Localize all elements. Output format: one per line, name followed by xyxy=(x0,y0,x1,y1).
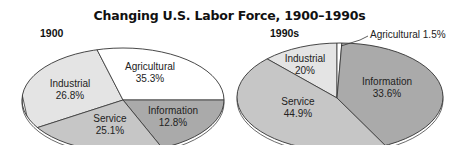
value-1900-service: 25.1% xyxy=(96,125,124,136)
value-1900-agricultural: 35.3% xyxy=(136,73,164,84)
label-1990s-industrial: Industrial xyxy=(285,53,326,64)
label-1900-information: Information xyxy=(148,105,198,116)
label-1900-agricultural: Agricultural xyxy=(125,61,175,72)
pie-charts: Agricultural 35.3% Industrial 26.8% Info… xyxy=(0,0,459,145)
pie-1990s: Agricultural 1.5% Industrial 20% Informa… xyxy=(220,29,459,145)
value-1900-industrial: 26.8% xyxy=(56,90,84,101)
value-1990s-service: 44.9% xyxy=(284,108,312,119)
label-1900-industrial: Industrial xyxy=(50,78,91,89)
value-1900-information: 12.8% xyxy=(159,117,187,128)
pie-1900: Agricultural 35.3% Industrial 26.8% Info… xyxy=(10,40,240,145)
label-1900-service: Service xyxy=(93,113,127,124)
value-1990s-industrial: 20% xyxy=(295,65,315,76)
callout-1990s-agricultural: Agricultural 1.5% xyxy=(370,29,446,40)
label-1990s-information: Information xyxy=(362,76,412,87)
label-1990s-service: Service xyxy=(281,96,315,107)
value-1990s-information: 33.6% xyxy=(373,88,401,99)
